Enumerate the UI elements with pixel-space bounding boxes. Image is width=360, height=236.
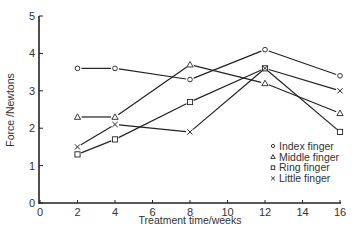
x-tick-label: 2 — [74, 206, 80, 218]
series-index-finger — [75, 47, 342, 82]
triangle-marker — [262, 80, 268, 85]
y-tick-label: 4 — [29, 47, 35, 59]
circle-marker — [188, 77, 193, 82]
y-tick-label: 1 — [29, 160, 35, 172]
line-chart: 0246810121416012345 Force /Newtons Treat… — [0, 0, 360, 236]
cross-marker — [112, 122, 117, 127]
circle-marker — [113, 66, 118, 71]
legend-item: Little finger — [271, 172, 331, 184]
triangle-marker — [337, 110, 343, 115]
square-marker — [75, 152, 80, 157]
square-marker — [187, 99, 192, 104]
cross-marker — [75, 144, 80, 149]
legend-label: Little finger — [279, 172, 331, 184]
square-marker — [271, 166, 275, 170]
cross-marker — [187, 129, 192, 134]
y-axis-title: Force /Newtons — [4, 73, 16, 147]
series-segment — [269, 85, 337, 112]
circle-marker — [75, 66, 80, 71]
series-segment — [119, 104, 187, 138]
axes: 0246810121416012345 — [29, 10, 346, 218]
triangle-marker — [187, 62, 193, 67]
x-axis-title: Treatment time/weeks — [139, 214, 242, 226]
circle-marker — [338, 74, 343, 79]
series-segment — [81, 141, 111, 153]
x-tick-label: 0 — [37, 206, 43, 218]
circle-marker — [271, 144, 274, 147]
x-tick-label: 14 — [296, 206, 308, 218]
y-tick-label: 5 — [29, 10, 35, 22]
series-segment — [119, 125, 186, 132]
triangle-marker — [271, 155, 275, 159]
series-segment — [269, 51, 336, 75]
x-tick-label: 4 — [112, 206, 118, 218]
circle-marker — [263, 47, 268, 52]
x-tick-label: 16 — [334, 206, 346, 218]
y-tick-label: 0 — [29, 197, 35, 209]
square-marker — [112, 137, 117, 142]
x-tick-label: 12 — [259, 206, 271, 218]
y-tick-label: 3 — [29, 85, 35, 97]
cross-marker — [337, 88, 342, 93]
series-segment — [193, 71, 262, 129]
triangle-marker — [74, 114, 80, 119]
legend: Index fingerMiddle fingerRing fingerLitt… — [271, 140, 340, 184]
cross-marker — [271, 177, 275, 181]
triangle-marker — [112, 114, 118, 119]
y-tick-label: 2 — [29, 122, 35, 134]
square-marker — [337, 129, 342, 134]
